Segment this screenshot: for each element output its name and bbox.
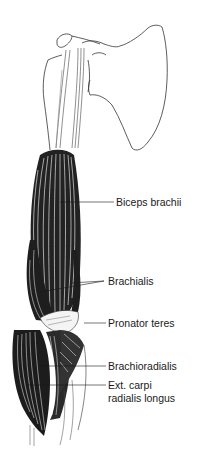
label-ext-carpi-line2: radialis longus [108,392,175,404]
humerus-outline [43,55,89,150]
label-brachioradialis: Brachioradialis [108,360,177,372]
label-ext-carpi-line1: Ext. carpi [108,379,152,391]
label-brachialis: Brachialis [108,275,154,287]
forearm-muscles [12,330,86,446]
biceps-tendons [56,48,84,148]
label-biceps-brachii: Biceps brachii [116,196,181,208]
arm-anatomy-illustration [0,0,197,453]
label-pronator-teres: Pronator teres [108,317,175,329]
